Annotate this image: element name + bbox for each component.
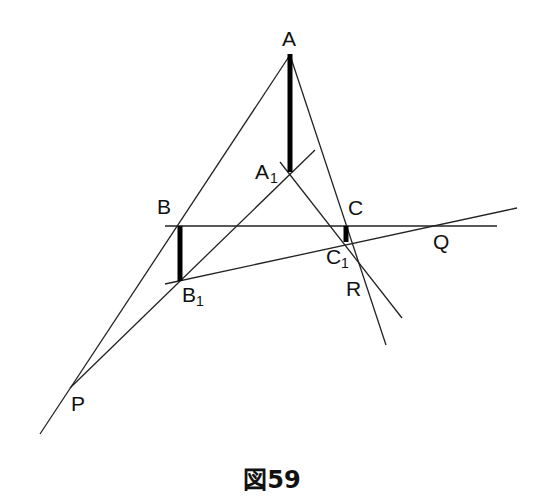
line-A-B-P (40, 55, 290, 434)
label-A: A (282, 27, 296, 50)
label-P: P (71, 392, 85, 415)
point-labels: A A 1 B B 1 C C 1 Q R P (71, 27, 449, 415)
label-A1-sub: 1 (270, 170, 278, 186)
label-B1-sub: 1 (196, 293, 204, 309)
perspective-triangles-diagram: A A 1 B B 1 C C 1 Q R P (0, 0, 544, 504)
label-C1: C (326, 245, 341, 268)
label-C1-sub: 1 (341, 255, 349, 271)
line-P-B1-A1 (70, 150, 315, 388)
label-A1: A (255, 160, 269, 183)
line-A1-C1-R (280, 162, 402, 318)
label-Q: Q (433, 230, 449, 253)
label-C: C (348, 196, 363, 219)
label-B: B (157, 195, 171, 218)
line-A-C-R (290, 55, 386, 345)
figure-caption: 図59 (0, 460, 544, 495)
label-B1: B (182, 283, 196, 306)
label-R: R (346, 277, 361, 300)
